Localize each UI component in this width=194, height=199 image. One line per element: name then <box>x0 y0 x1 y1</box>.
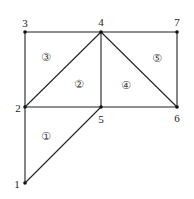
node-label-7: 7 <box>174 17 180 28</box>
node-7-dot <box>175 30 179 34</box>
element-label-1: ① <box>41 131 51 142</box>
element-label-5: ⑤ <box>152 53 162 64</box>
node-label-3: 3 <box>22 18 28 29</box>
node-label-5: 5 <box>98 114 104 125</box>
edge-4-6 <box>101 32 177 107</box>
edge-2-4 <box>25 32 101 107</box>
node-1-dot <box>23 181 27 185</box>
element-label-4: ④ <box>121 80 131 91</box>
node-label-1: 1 <box>14 179 20 190</box>
node-4-dot <box>99 30 103 34</box>
node-2-dot <box>23 105 27 109</box>
node-3-dot <box>23 30 27 34</box>
edge-1-5 <box>25 107 101 183</box>
node-label-2: 2 <box>15 103 21 114</box>
node-5-dot <box>99 105 103 109</box>
node-6-dot <box>175 105 179 109</box>
node-label-6: 6 <box>174 113 180 124</box>
mesh-lines <box>0 0 194 199</box>
element-label-3: ③ <box>41 52 51 63</box>
mesh-diagram: 1234567①②③④⑤ <box>0 0 194 199</box>
node-label-4: 4 <box>98 17 104 28</box>
element-label-2: ② <box>74 79 84 90</box>
